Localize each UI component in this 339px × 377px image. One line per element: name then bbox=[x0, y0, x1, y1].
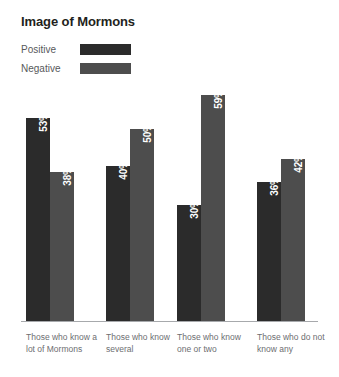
chart-container: Image of Mormons Positive Negative 53% 3… bbox=[0, 0, 339, 377]
bar-negative-know-several[interactable]: 50% bbox=[130, 129, 154, 321]
bar-value-negative-do-not-know-any: 42% bbox=[293, 159, 304, 173]
bar-value-negative-know-one-or-two: 59% bbox=[213, 95, 224, 109]
bar-group-know-one-or-two: 30% 59% bbox=[177, 0, 225, 322]
bar-negative-know-one-or-two[interactable]: 59% bbox=[201, 95, 225, 321]
bar-value-positive-know-several: 40% bbox=[118, 166, 129, 180]
bar-value-positive-know-one-or-two: 30% bbox=[189, 205, 200, 219]
category-label-do-not-know-any: Those who do not know any bbox=[257, 332, 331, 355]
bar-value-positive-do-not-know-any: 36% bbox=[269, 182, 280, 196]
x-axis-baseline bbox=[21, 321, 318, 322]
bar-group-know-several: 40% 50% bbox=[106, 0, 154, 322]
bar-group-do-not-know-any: 36% 42% bbox=[257, 0, 305, 322]
bar-positive-know-one-or-two[interactable]: 30% bbox=[177, 205, 201, 321]
bar-negative-do-not-know-any[interactable]: 42% bbox=[281, 159, 305, 321]
category-label-know-a-lot: Those who know a lot of Mormons bbox=[26, 332, 100, 355]
bar-group-know-a-lot: 53% 38% bbox=[26, 0, 74, 322]
bar-positive-do-not-know-any[interactable]: 36% bbox=[257, 182, 281, 321]
category-label-know-several: Those who know several bbox=[106, 332, 180, 355]
bar-value-positive-know-a-lot: 53% bbox=[38, 118, 49, 132]
bar-value-negative-know-a-lot: 38% bbox=[62, 172, 73, 186]
bar-positive-know-several[interactable]: 40% bbox=[106, 166, 130, 321]
bar-negative-know-a-lot[interactable]: 38% bbox=[50, 172, 74, 321]
x-axis-category-labels: Those who know a lot of Mormons Those wh… bbox=[0, 332, 339, 377]
bar-positive-know-a-lot[interactable]: 53% bbox=[26, 118, 50, 321]
category-label-know-one-or-two: Those who know one or two bbox=[177, 332, 251, 355]
bar-value-negative-know-several: 50% bbox=[142, 129, 153, 143]
plot-area: 53% 38% 40% 50% 30% 59% 36% bbox=[0, 0, 339, 322]
